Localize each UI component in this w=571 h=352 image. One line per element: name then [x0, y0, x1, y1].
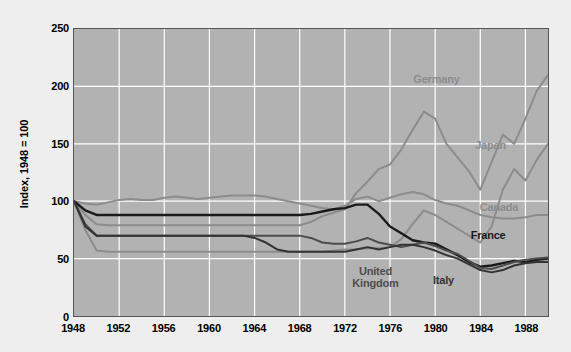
x-tick-label: 1952	[96, 322, 140, 334]
x-tick-label: 1968	[278, 322, 322, 334]
y-tick-label: 150	[5, 139, 69, 150]
chart-container: Index, 1948 = 100 050100150200250 German…	[0, 0, 571, 352]
x-tick-label: 1960	[187, 322, 231, 334]
x-tick-label: 1988	[504, 322, 548, 334]
x-tick-label: 1984	[459, 322, 503, 334]
y-tick-label: 100	[5, 196, 69, 207]
x-tick-label: 1948	[51, 322, 95, 334]
series-line-italy	[74, 201, 548, 272]
y-tick-label: 50	[5, 254, 69, 265]
x-tick-label: 1980	[414, 322, 458, 334]
x-tick-label: 1976	[368, 322, 412, 334]
plot-area: GermanyJapanCanadaFranceUnited KingdomIt…	[73, 28, 549, 317]
series-lines	[74, 29, 548, 316]
y-tick-label: 200	[5, 81, 69, 92]
series-line-germany	[74, 75, 548, 225]
x-tick-label: 1964	[232, 322, 276, 334]
x-tick-label: 1972	[323, 322, 367, 334]
x-axis-tick-labels: 1948195219561960196419681972197619801984…	[0, 322, 571, 342]
y-axis-tick-labels: 050100150200250	[0, 0, 69, 352]
series-line-france	[74, 201, 548, 266]
y-tick-label: 250	[5, 23, 69, 34]
x-tick-label: 1956	[142, 322, 186, 334]
